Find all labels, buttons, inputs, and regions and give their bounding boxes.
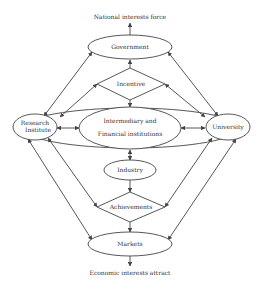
university-achievements-edge xyxy=(165,138,212,207)
markets-node: Markets xyxy=(88,232,172,256)
intermediary-label-line2: Financial institutions xyxy=(98,130,162,137)
university-node: University xyxy=(206,114,250,140)
intermediary-label-line1: Intermediary and xyxy=(103,117,156,125)
research-institute-node: Research Institute xyxy=(13,114,57,140)
industry-label: Industry xyxy=(117,166,143,174)
bottom-caption: Economic interests attract xyxy=(90,269,172,276)
industry-node: Industry xyxy=(104,160,156,180)
intermediary-node: Intermediary and Financial institutions xyxy=(79,107,181,149)
university-label: University xyxy=(212,123,244,131)
achievements-label: Achievements xyxy=(109,203,153,210)
government-node: Government xyxy=(88,35,172,59)
government-university-edge xyxy=(168,52,218,116)
university-markets-edge xyxy=(168,139,236,240)
incentive-research-edge xyxy=(60,84,97,117)
achievements-node: Achievements xyxy=(97,192,165,222)
innovation-system-diagram: National interests force Government Ince… xyxy=(0,0,260,290)
research-achievements-edge xyxy=(48,138,97,207)
incentive-node: Incentive xyxy=(97,68,165,100)
government-label: Government xyxy=(111,43,149,50)
research-label-line1: Research xyxy=(21,119,50,126)
government-research-edge xyxy=(44,52,92,116)
top-caption: National interests force xyxy=(94,13,167,20)
markets-label: Markets xyxy=(117,240,142,247)
research-label-line2: Institute xyxy=(25,126,51,133)
incentive-university-edge xyxy=(165,84,205,117)
incentive-label: Incentive xyxy=(117,80,146,87)
